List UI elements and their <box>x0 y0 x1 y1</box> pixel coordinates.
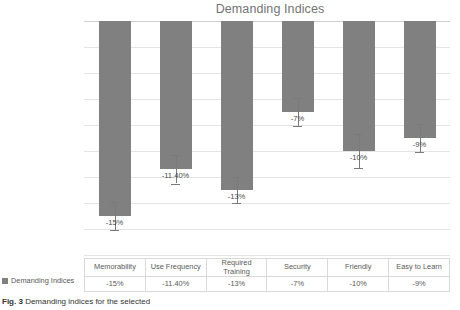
gridline <box>84 99 450 100</box>
error-bar-cap <box>415 124 424 125</box>
table-value-cell: -10% <box>328 277 389 292</box>
table-header-cell: Required Training <box>206 259 267 277</box>
figure-container: Demanding Indices 0%-2%-4%-6%-8%-10%-12%… <box>0 0 460 310</box>
figure-caption: Fig. 3 Demanding indices for the selecte… <box>2 297 150 306</box>
gridline <box>84 229 450 230</box>
bar-easy-to-learn <box>404 21 436 138</box>
table-header-cell: Memorability <box>85 259 146 277</box>
bar-memorability <box>99 21 131 216</box>
legend-swatch-icon <box>2 278 8 284</box>
bar-value-label: -10% <box>350 153 368 162</box>
gridline <box>84 47 450 48</box>
table-value-cell: -9% <box>389 277 450 292</box>
error-bar-cap <box>415 152 424 153</box>
gridline <box>84 177 450 178</box>
chart-data-table: MemorabilityUse FrequencyRequired Traini… <box>84 258 450 292</box>
bar-value-label: -11.40% <box>162 171 190 180</box>
error-bar-cap <box>110 230 119 231</box>
bar-value-label: -13% <box>228 192 246 201</box>
bar-value-label: -15% <box>106 218 124 227</box>
error-bar-cap <box>293 126 302 127</box>
gridline <box>84 21 450 22</box>
legend-label: Demanding Indices <box>11 276 74 285</box>
table-header-cell: Friendly <box>328 259 389 277</box>
gridline <box>84 125 450 126</box>
table-value-cell: -11.40% <box>145 277 206 292</box>
table-value-row: -15%-11.40%-13%-7%-10%-9% <box>85 277 450 292</box>
error-bar-cap <box>232 177 241 178</box>
error-bar-cap <box>232 203 241 204</box>
gridline <box>84 255 450 256</box>
legend-demanding-indices: Demanding Indices <box>2 276 82 285</box>
error-bar-cap <box>354 134 363 135</box>
figure-caption-text: Demanding indices for the selected <box>25 297 150 306</box>
error-bar-cap <box>171 184 180 185</box>
bar-use-frequency <box>160 21 192 169</box>
bar-value-label: -7% <box>291 114 305 123</box>
table-value-cell: -15% <box>85 277 146 292</box>
plot-area: 0%-2%-4%-6%-8%-10%-12%-14%-16%-18%-15%-1… <box>84 21 450 255</box>
error-bar <box>359 134 360 168</box>
table-header-cell: Easy to Learn <box>389 259 450 277</box>
table-header-cell: Security <box>267 259 328 277</box>
table-value-cell: -7% <box>267 277 328 292</box>
table-header-row: MemorabilityUse FrequencyRequired Traini… <box>85 259 450 277</box>
table-value-cell: -13% <box>206 277 267 292</box>
gridline <box>84 203 450 204</box>
chart-title: Demanding Indices <box>95 2 445 16</box>
error-bar-cap <box>354 168 363 169</box>
bar-friendly <box>343 21 375 151</box>
bar-required-training <box>221 21 253 190</box>
gridline <box>84 73 450 74</box>
error-bar-cap <box>110 202 119 203</box>
figure-caption-label: Fig. 3 <box>2 297 23 306</box>
gridline <box>84 151 450 152</box>
error-bar-cap <box>293 98 302 99</box>
bar-value-label: -9% <box>413 140 427 149</box>
table-header-cell: Use Frequency <box>145 259 206 277</box>
error-bar-cap <box>171 155 180 156</box>
